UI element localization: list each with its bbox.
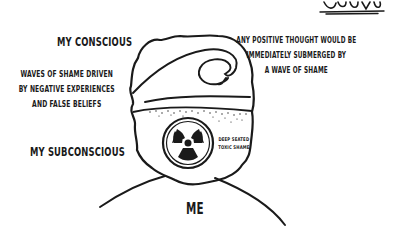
positive-thought-line-3: A WAVE OF SHAME xyxy=(232,63,361,78)
me-label: ME xyxy=(186,199,204,219)
my-conscious-label: MY CONSCIOUS xyxy=(57,35,132,50)
waves-line-1: WAVES OF SHAME DRIVEN xyxy=(18,67,116,82)
toxic-line-2: TOXIC SHAME xyxy=(216,143,252,151)
toxic-line-1: DEEP SEATED xyxy=(216,135,252,143)
waves-line-2: BY NEGATIVE EXPERIENCES xyxy=(18,82,116,97)
radiation-icon xyxy=(163,118,213,168)
waves-of-shame-caption: WAVES OF SHAME DRIVEN BY NEGATIVE EXPERI… xyxy=(18,67,116,112)
shame-diagram: MY CONSCIOUS ANY POSITIVE THOUGHT WOULD … xyxy=(0,0,393,237)
positive-thought-line-1: ANY POSITIVE THOUGHT WOULD BE xyxy=(232,33,361,48)
positive-thought-line-2: IMMEDIATELY SUBMERGED BY xyxy=(232,48,361,63)
signature-icon xyxy=(318,0,388,16)
toxic-shame-caption: DEEP SEATED TOXIC SHAME xyxy=(216,135,252,151)
waves-line-3: AND FALSE BELIEFS xyxy=(18,97,116,112)
my-subconscious-label: MY SUBCONSCIOUS xyxy=(30,145,125,160)
positive-thought-caption: ANY POSITIVE THOUGHT WOULD BE IMMEDIATEL… xyxy=(232,33,361,78)
